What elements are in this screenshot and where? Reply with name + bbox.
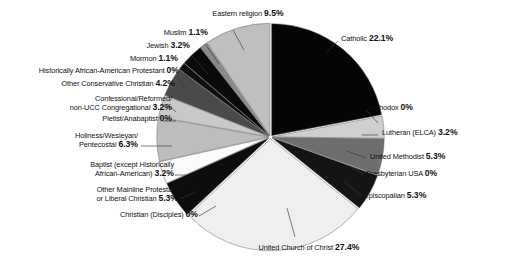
callout-catholic: Catholic 22.1%	[341, 34, 481, 43]
callout-jewish: Jewish 3.2%	[80, 41, 190, 50]
callout-mormon: Mormon 1.1%	[62, 54, 178, 63]
callout-confessional-reformed: Confessional/Reformed/ non-UCC Congregat…	[28, 94, 172, 112]
callout-presbyterian-usa: Presbyterian USA 0%	[366, 169, 500, 178]
callout-united-church-of-christ: United Church of Christ 27.4%	[228, 243, 390, 252]
callout-other-mainline-protestant: Other Mainline Protestant or Liberal Chr…	[52, 185, 178, 203]
callout-other-conservative: Other Conservative Christian 4.2%	[8, 79, 175, 88]
callout-baptist: Baptist (except Historically African-Ame…	[38, 160, 174, 178]
callout-muslim: Muslim 1.1%	[96, 28, 208, 37]
callout-united-methodist: United Methodist 5.3%	[370, 152, 504, 161]
callout-hist-aa-protestant: Historically African-American Protestant…	[4, 66, 179, 75]
callout-episcopalian: Episcopalian 5.3%	[364, 191, 494, 200]
callout-pietist-anabaptist: Pietist/Anabaptist 0%	[40, 114, 172, 123]
callout-lutheran-elca: Lutheran (ELCA) 3.2%	[382, 128, 504, 137]
callout-holiness-wesleyan-pentecostal: Holiness/Wesleyan/ Pentecostal 6.3%	[28, 131, 138, 149]
pie-chart-figure: Eastern religion 9.5% Muslim 1.1% Jewish…	[0, 0, 505, 268]
callout-eastern-religion: Eastern religion 9.5%	[186, 9, 310, 18]
callout-christian-disciples: Christian (Disciples) 0%	[70, 210, 198, 219]
callout-orthodox: Orthodox 0%	[369, 103, 489, 112]
